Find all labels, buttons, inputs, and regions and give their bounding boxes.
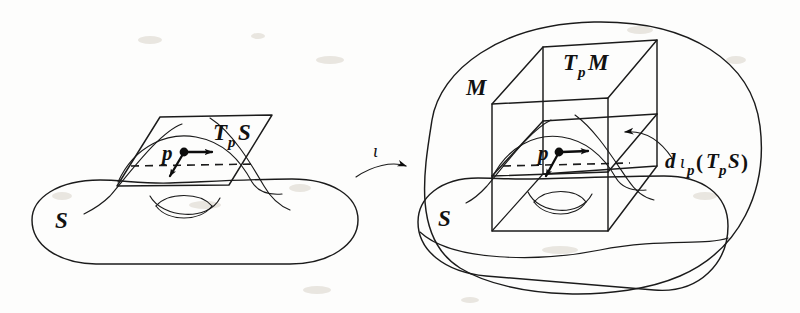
label-manifold-m: M xyxy=(465,75,488,100)
label-immersion-iota: ι xyxy=(373,141,378,161)
label-tangent-space-m: T p M xyxy=(563,50,610,80)
cube-edge-top-left xyxy=(492,47,543,104)
svg-text:p: p xyxy=(226,134,236,150)
cube-edge-bottom-left xyxy=(492,174,543,231)
svg-text:S: S xyxy=(728,149,740,173)
label-differential-dip-tps: d ι p ( T p S ) xyxy=(665,149,748,178)
label-surface-s-right: S xyxy=(438,206,451,231)
label-point-p-right: p xyxy=(536,141,549,165)
slice-plane-front-edge xyxy=(492,172,608,176)
immersion-arrow-curve xyxy=(356,164,406,177)
tangent-space-immersion-diagram: S T p S p ι xyxy=(0,0,800,313)
slice-plane-left-edge xyxy=(492,121,543,176)
svg-text:d: d xyxy=(665,149,676,173)
figure-root: S T p S p ι xyxy=(0,0,800,313)
svg-text:M: M xyxy=(587,50,610,75)
surface-hole-right-lower xyxy=(534,202,586,214)
cube-edge-top-right xyxy=(608,40,657,98)
svg-text:T: T xyxy=(213,120,228,145)
slice-plane-back-edge xyxy=(543,114,657,121)
immersion-map-group: ι xyxy=(356,141,406,177)
svg-text:p: p xyxy=(685,162,695,178)
surface-s-outline-left xyxy=(32,179,358,264)
svg-text:S: S xyxy=(238,120,251,145)
coordinate-curve-right-b xyxy=(575,115,654,200)
svg-text:(: ( xyxy=(696,150,703,174)
right-manifold-group: M S T p M p d ι p ( T p S ) xyxy=(418,22,761,294)
surface-hole-right xyxy=(528,192,592,210)
tangent-vector-horizontal-right xyxy=(562,151,588,152)
svg-text:): ) xyxy=(741,150,748,174)
label-point-p-left: p xyxy=(160,141,173,165)
tangent-plane-dashed-axis-right xyxy=(503,163,630,166)
tangent-plane-dashed-axis-left xyxy=(131,164,256,166)
svg-text:p: p xyxy=(717,162,727,178)
svg-text:T: T xyxy=(563,50,578,75)
svg-text:p: p xyxy=(576,64,586,80)
surface-s-fold-right xyxy=(420,232,728,257)
svg-text:ι: ι xyxy=(680,152,685,172)
surface-hole-right-upper xyxy=(534,192,586,203)
svg-text:T: T xyxy=(706,149,720,173)
label-surface-s-left: S xyxy=(55,208,68,233)
